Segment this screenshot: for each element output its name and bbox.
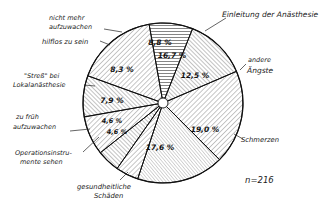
label-nicht-mehr: nicht mehr <box>49 14 86 22</box>
slice-percent-label: 16,7 % <box>158 51 187 60</box>
label-schaeden-2: Schäden <box>94 192 123 200</box>
label-op-instrumente: Operationsinstru- <box>15 149 72 157</box>
slice-percent-label: 8,8 % <box>148 38 172 47</box>
slice-percent-label: 4,6 % <box>102 117 123 125</box>
slice-percent-label: 17,6 % <box>146 143 175 152</box>
slice-percent-label: 4,6 % <box>107 128 128 136</box>
label-andere-aengste: andere <box>248 56 271 64</box>
label-zu-frueh-2: aufzuwachen <box>13 123 56 131</box>
label-stress-2: Lokalanästhesie <box>13 81 65 89</box>
label-stress: "Streß" bei <box>24 72 60 80</box>
label-schaeden: gesundheitliche <box>77 183 131 191</box>
label-op-instrumente-2: mente sehen <box>20 158 63 166</box>
slice-percent-label: 19,0 % <box>191 125 220 134</box>
slice-percent-label: 8,3 % <box>110 65 134 74</box>
center-hole <box>158 98 168 108</box>
label-schmerzen: Schmerzen <box>241 136 279 144</box>
slice-percent-label: 7,9 % <box>100 96 124 105</box>
slice-percent-label: 12,5 % <box>181 71 210 80</box>
label-zu-frueh: zu früh <box>15 113 39 121</box>
label-hilflos: hilflos zu sein <box>42 38 88 46</box>
label-nicht-mehr-2: aufzuwachen <box>49 23 92 31</box>
pie-chart: 8,8 %12,5 %19,0 %17,6 %4,6 %4,6 %7,9 %8,… <box>0 0 335 208</box>
label-einleitung: Einleitung der Anästhesie <box>222 10 318 19</box>
n-label: n=216 <box>245 175 274 185</box>
label-andere-aengste-2: Ängste <box>246 66 273 75</box>
